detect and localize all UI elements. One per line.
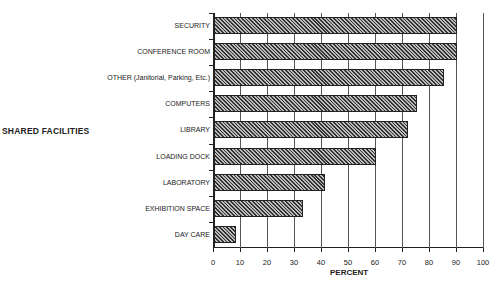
category-label: COMPUTERS: [165, 99, 210, 109]
x-tick: [294, 248, 295, 252]
y-tick: [209, 170, 214, 171]
gridline: [483, 13, 484, 248]
bar: [214, 148, 376, 165]
category-label: LIBRARY: [180, 125, 210, 135]
category-label: DAY CARE: [175, 230, 210, 240]
bar: [214, 121, 408, 138]
x-tick: [375, 248, 376, 252]
x-tick-label: 30: [290, 258, 298, 267]
plot-area: [213, 13, 483, 248]
x-tick: [402, 248, 403, 252]
bar: [214, 69, 444, 86]
category-label: SECURITY: [175, 21, 210, 31]
x-tick: [213, 248, 214, 252]
bar: [214, 95, 417, 112]
x-tick: [483, 248, 484, 252]
x-axis-title: PERCENT: [330, 268, 368, 277]
category-label: LOADING DOCK: [156, 152, 210, 162]
category-label: CONFERENCE ROOM: [137, 47, 210, 57]
bar: [214, 226, 236, 243]
y-tick: [209, 91, 214, 92]
x-tick: [240, 248, 241, 252]
x-tick: [267, 248, 268, 252]
x-tick-label: 70: [398, 258, 406, 267]
y-tick: [209, 144, 214, 145]
x-tick: [456, 248, 457, 252]
category-label: EXHIBITION SPACE: [145, 204, 210, 214]
x-tick-label: 60: [371, 258, 379, 267]
category-label: LABORATORY: [163, 178, 210, 188]
x-tick-label: 50: [344, 258, 352, 267]
x-tick-label: 0: [211, 258, 215, 267]
y-tick: [209, 117, 214, 118]
bar: [214, 200, 303, 217]
y-axis-title: SHARED FACILITIES: [2, 126, 89, 136]
y-tick: [209, 65, 214, 66]
x-tick: [348, 248, 349, 252]
category-label: OTHER (Janitorial, Parking, Etc.): [107, 73, 210, 83]
bar: [214, 43, 457, 60]
x-tick-label: 90: [452, 258, 460, 267]
y-tick: [209, 196, 214, 197]
bar: [214, 17, 457, 34]
x-tick-label: 20: [263, 258, 271, 267]
x-tick-label: 80: [425, 258, 433, 267]
y-tick: [209, 13, 214, 14]
x-tick-label: 100: [477, 258, 490, 267]
x-tick: [429, 248, 430, 252]
x-tick-label: 40: [317, 258, 325, 267]
x-tick: [321, 248, 322, 252]
x-tick-label: 10: [236, 258, 244, 267]
bar: [214, 174, 325, 191]
y-tick: [209, 39, 214, 40]
y-tick: [209, 222, 214, 223]
